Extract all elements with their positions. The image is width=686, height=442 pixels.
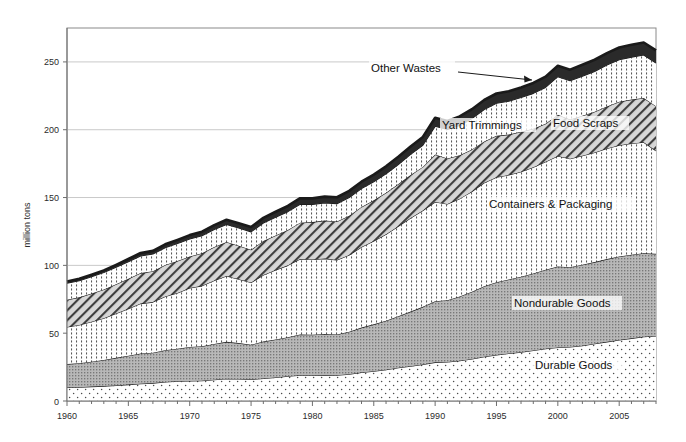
stacked-area-chart: 050100150200250 196019651970197519801985…	[0, 0, 686, 442]
series-label-other-wastes: Other Wastes	[371, 62, 441, 74]
x-tick-label: 1985	[364, 411, 384, 421]
x-tick-label: 2005	[609, 411, 629, 421]
x-tick-label: 1975	[241, 411, 261, 421]
y-axis-title: million tons	[22, 202, 32, 248]
x-tick-label: 1990	[425, 411, 445, 421]
y-tick-label: 100	[44, 261, 59, 271]
y-tick-label: 150	[44, 193, 59, 203]
series-label-containers-packaging: Containers & Packaging	[489, 198, 612, 210]
x-tick-label: 1980	[302, 411, 322, 421]
x-tick-label: 2000	[548, 411, 568, 421]
chart-container: 050100150200250 196019651970197519801985…	[0, 0, 686, 442]
x-tick-label: 1960	[57, 411, 77, 421]
series-label-food-scraps: Food Scraps	[553, 117, 618, 129]
y-tick-label: 50	[49, 329, 59, 339]
y-tick-label: 0	[54, 397, 59, 407]
y-tick-label: 200	[44, 125, 59, 135]
series-label-durable-goods: Durable Goods	[535, 359, 613, 371]
series-label-yard-trimmings: Yard Trimmings	[442, 119, 522, 131]
x-tick-label: 1965	[118, 411, 138, 421]
x-tick-label: 1970	[180, 411, 200, 421]
series-label-nondurable-goods: Nondurable Goods	[514, 297, 611, 309]
x-tick-label: 1995	[486, 411, 506, 421]
y-tick-label: 250	[44, 57, 59, 67]
